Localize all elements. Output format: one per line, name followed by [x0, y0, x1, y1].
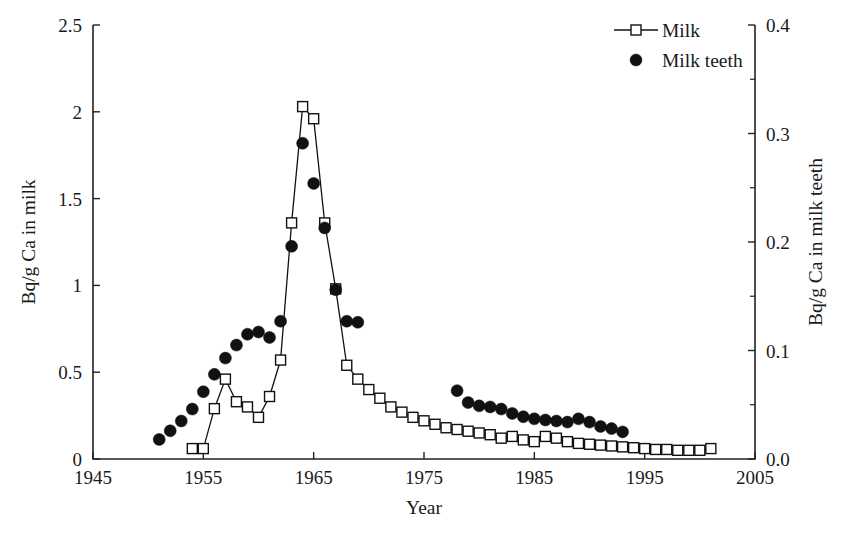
legend-label-text: Milk teeth: [662, 50, 743, 71]
data-point-square: [276, 355, 286, 365]
data-point-square: [375, 393, 385, 403]
data-point-square: [397, 407, 407, 417]
data-point-square: [220, 374, 230, 384]
data-point-square: [463, 426, 473, 436]
data-point-square: [695, 445, 705, 455]
data-point-square: [452, 424, 462, 434]
data-point-circle: [264, 331, 276, 343]
x-tick-label: 1985: [515, 467, 553, 488]
x-tick-label: 1965: [295, 467, 333, 488]
data-point-circle: [197, 386, 209, 398]
data-point-circle: [550, 415, 562, 427]
data-point-circle: [595, 420, 607, 432]
data-point-square: [573, 438, 583, 448]
data-point-circle: [319, 222, 331, 234]
y2-tick-label: 0.4: [766, 15, 790, 36]
y-tick-label: 1.5: [58, 189, 82, 210]
axis-labels-group: 194519551965197519851995200500.511.522.5…: [18, 15, 826, 518]
chart-legend: MilkMilk teeth: [614, 20, 743, 71]
data-point-circle: [230, 339, 242, 351]
data-point-square: [242, 402, 252, 412]
x-tick-label: 1945: [74, 467, 112, 488]
data-point-circle: [528, 413, 540, 425]
data-point-circle: [186, 403, 198, 415]
data-point-square: [673, 445, 683, 455]
data-point-circle: [241, 328, 253, 340]
x-tick-label: 1975: [405, 467, 443, 488]
data-point-circle: [286, 240, 298, 252]
data-point-square: [507, 431, 517, 441]
data-point-square: [640, 444, 650, 454]
x-tick-label: 1995: [626, 467, 664, 488]
data-point-circle: [606, 423, 618, 435]
data-point-square: [386, 402, 396, 412]
data-point-square: [298, 102, 308, 112]
data-point-square: [529, 437, 539, 447]
y-tick-label: 2: [73, 102, 83, 123]
data-point-circle: [484, 401, 496, 413]
data-point-circle: [308, 177, 320, 189]
data-point-square: [662, 444, 672, 454]
data-point-square: [496, 433, 506, 443]
data-point-square: [706, 444, 716, 454]
data-point-circle: [462, 397, 474, 409]
chart-figure: 194519551965197519851995200500.511.522.5…: [0, 0, 853, 543]
data-point-circle: [352, 316, 364, 328]
series-milk-teeth: [153, 137, 628, 445]
y-tick-label: 0: [73, 449, 83, 470]
axes-group: [93, 25, 755, 459]
data-point-square: [287, 218, 297, 228]
data-point-circle: [517, 411, 529, 423]
data-point-circle: [341, 315, 353, 327]
data-point-square: [419, 416, 429, 426]
data-point-circle: [219, 352, 231, 364]
data-point-square: [607, 441, 617, 451]
data-point-square: [364, 385, 374, 395]
data-point-square: [198, 444, 208, 454]
y2-tick-label: 0.2: [766, 232, 790, 253]
legend-item-milk[interactable]: Milk: [614, 20, 700, 41]
data-point-square: [518, 435, 528, 445]
data-series-group: [153, 102, 716, 456]
data-point-circle: [584, 416, 596, 428]
data-point-square: [353, 374, 363, 384]
x-tick-label: 2005: [736, 467, 774, 488]
y-tick-label: 2.5: [58, 15, 82, 36]
data-point-circle: [153, 433, 165, 445]
data-point-square: [309, 114, 319, 124]
data-point-square: [254, 412, 264, 422]
y2-axis-title: Bq/g Ca in milk teeth: [805, 158, 826, 326]
data-point-square: [551, 433, 561, 443]
data-point-circle: [506, 407, 518, 419]
data-point-square: [474, 428, 484, 438]
data-point-square: [585, 439, 595, 449]
data-point-circle: [561, 416, 573, 428]
legend-label-text: Milk: [662, 20, 700, 41]
data-point-square: [342, 360, 352, 370]
data-point-square: [441, 423, 451, 433]
series-milk: [187, 102, 716, 456]
data-point-circle: [473, 400, 485, 412]
data-point-circle: [297, 137, 309, 149]
data-point-square: [408, 412, 418, 422]
data-point-square: [629, 443, 639, 453]
data-point-square: [540, 431, 550, 441]
data-point-square: [684, 445, 694, 455]
legend-marker-circle: [630, 54, 642, 66]
data-point-square: [265, 392, 275, 402]
data-point-square: [618, 442, 628, 452]
data-point-circle: [208, 368, 220, 380]
x-axis-title: Year: [406, 497, 442, 518]
legend-item-milk-teeth[interactable]: Milk teeth: [630, 50, 743, 71]
data-point-square: [231, 397, 241, 407]
data-point-square: [562, 437, 572, 447]
y-tick-label: 1: [73, 275, 83, 296]
y-axis-title: Bq/g Ca in milk: [18, 179, 39, 304]
data-point-circle: [495, 403, 507, 415]
x-tick-label: 1955: [184, 467, 222, 488]
data-point-square: [485, 430, 495, 440]
data-point-circle: [253, 326, 265, 338]
data-point-circle: [539, 414, 551, 426]
data-point-circle: [175, 415, 187, 427]
data-point-circle: [275, 315, 287, 327]
